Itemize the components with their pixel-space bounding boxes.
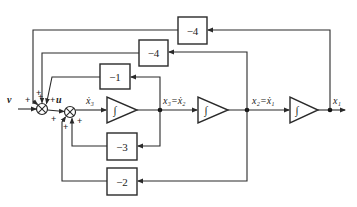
- summing-junction-2: [65, 107, 76, 118]
- fb-x3-to-gain-inner-bottom: [138, 110, 160, 146]
- gain-block-top-inner: −4: [139, 40, 168, 66]
- gain-top-inner-value: −4: [148, 47, 160, 59]
- integrator-2: ∫: [198, 97, 228, 123]
- fb-x3-to-gain-inner-top: [131, 77, 160, 110]
- s1-to-s2-line: [48, 110, 65, 112]
- input-v-label: v: [7, 94, 12, 105]
- gain-block-inner-top: −1: [100, 64, 130, 89]
- sign-s1-v: +: [25, 95, 30, 105]
- signal-x3-label: x₃=ẋ₂: [162, 95, 186, 106]
- signal-x1-label: x₁: [332, 95, 341, 106]
- fb-top-outer-arrow: [33, 101, 38, 105]
- gain-block-bottom: −2: [107, 168, 137, 195]
- signal-x2-label: x₂=ẋ₁: [251, 95, 275, 106]
- signal-x3dot-label: ẋ₃: [85, 95, 94, 106]
- gain-bottom-value: −2: [116, 176, 128, 188]
- summing-junction-1: [37, 104, 48, 115]
- sign-s1-top-b: +: [38, 92, 43, 102]
- gain-top-outer-value: −4: [187, 25, 199, 37]
- block-diagram: v + + + u + + + ẋ₃ ∫ x₃=ẋ₂ ∫ x₂=ẋ₁ ∫: [0, 0, 357, 207]
- sign-s2-bottom-a: +: [77, 116, 82, 126]
- gain-inner-bottom-value: −3: [116, 141, 128, 153]
- gain-block-inner-bottom: −3: [107, 133, 137, 160]
- integrator-3: ∫: [290, 97, 318, 123]
- gain-inner-top-value: −1: [109, 71, 121, 83]
- sign-s1-u: +: [50, 95, 55, 105]
- gain-block-top-outer: −4: [178, 17, 207, 44]
- input-u-label: u: [56, 94, 62, 105]
- sign-s2-left: +: [51, 114, 56, 124]
- fb-bottom-to-s2: [62, 117, 107, 181]
- sign-s2-bottom-b: +: [63, 122, 68, 132]
- integrator-1: ∫: [107, 97, 137, 123]
